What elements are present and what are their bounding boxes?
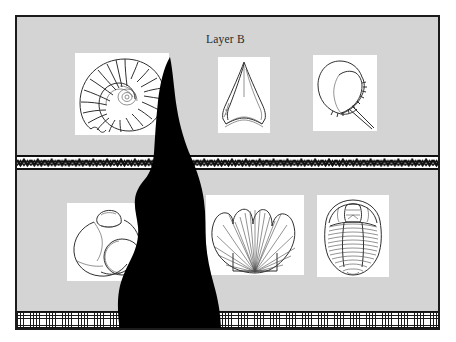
trilobite-icon: [317, 195, 389, 281]
layer-b-label: Layer B: [206, 33, 245, 45]
cross-section-frame: Layer B: [15, 15, 440, 330]
dike-shape-icon: [117, 57, 237, 330]
dike-label: Dike: [161, 305, 184, 317]
trilobite-fossil-plate[interactable]: [317, 195, 389, 277]
horseshoe-crab-icon: [313, 55, 377, 131]
diagram-canvas: Layer B: [0, 0, 456, 342]
horseshoe-crab-fossil-plate[interactable]: [313, 55, 377, 131]
dike-intrusion[interactable]: Dike: [117, 57, 237, 330]
